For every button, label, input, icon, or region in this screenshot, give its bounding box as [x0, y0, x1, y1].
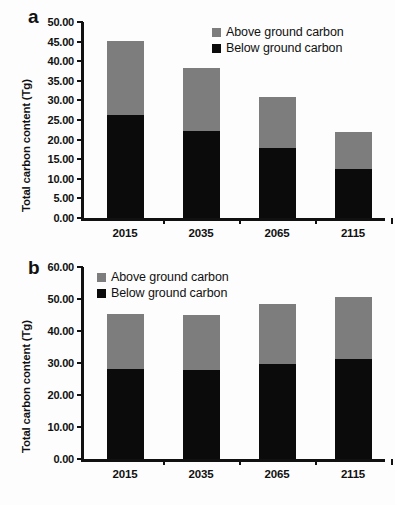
y-tick-mark	[77, 80, 83, 82]
chart-panel-b: b Total carbon content (Tg) 0.0010.0020.…	[0, 253, 395, 505]
x-tick-mark	[315, 459, 317, 465]
y-tick-label: 30.00	[47, 94, 74, 106]
y-tick-label: 45.00	[47, 36, 74, 48]
y-tick-mark	[77, 426, 83, 428]
bar-2015	[107, 314, 144, 459]
y-tick-label: 5.00	[53, 192, 74, 204]
panel-b-legend: Above ground carbon Below ground carbon	[97, 270, 229, 302]
panel-a-x-axis-line	[81, 218, 385, 221]
bar-segment-below-ground	[107, 369, 144, 459]
bar-segment-above-ground	[107, 314, 144, 369]
y-tick-mark	[77, 362, 83, 364]
panel-a-y-axis-title: Total carbon content (Tg)	[20, 79, 32, 212]
y-tick-mark	[77, 178, 83, 180]
y-tick-mark	[77, 41, 83, 43]
bar-segment-below-ground	[259, 364, 296, 459]
legend-swatch-below-ground-icon	[97, 289, 106, 298]
bar-2015	[107, 41, 144, 218]
legend-swatch-above-ground-icon	[212, 28, 221, 37]
y-tick-mark	[77, 99, 83, 101]
panel-a-legend-item-above: Above ground carbon	[212, 25, 344, 39]
y-tick-mark	[77, 394, 83, 396]
x-tick-mark	[391, 459, 393, 465]
bar-segment-above-ground	[259, 304, 296, 364]
panel-b-x-axis-line	[81, 459, 385, 462]
bar-segment-above-ground	[183, 68, 220, 132]
x-tick-mark	[163, 459, 165, 465]
bar-2065	[259, 304, 296, 459]
figure-stacked-carbon-charts: a Total carbon content (Tg) 0.005.0010.0…	[0, 0, 395, 505]
y-tick-label: 50.00	[47, 293, 74, 305]
bar-segment-below-ground	[107, 115, 144, 218]
x-tick-label-2065: 2065	[265, 227, 290, 239]
x-tick-mark	[391, 218, 393, 224]
x-tick-label-2035: 2035	[189, 227, 214, 239]
panel-b-legend-label-above: Above ground carbon	[111, 270, 229, 284]
panel-b-letter: b	[28, 257, 40, 279]
y-tick-label: 10.00	[47, 173, 74, 185]
y-tick-mark	[77, 119, 83, 121]
x-tick-label-2115: 2115	[341, 468, 365, 480]
x-tick-label-2065: 2065	[265, 468, 290, 480]
y-tick-label: 35.00	[47, 75, 74, 87]
y-tick-mark	[77, 217, 83, 219]
x-tick-mark	[315, 218, 317, 224]
bar-segment-above-ground	[335, 297, 372, 360]
x-tick-mark	[163, 218, 165, 224]
legend-swatch-below-ground-icon	[212, 44, 221, 53]
y-tick-label: 40.00	[47, 325, 74, 337]
y-tick-label: 40.00	[47, 55, 74, 67]
bar-segment-below-ground	[335, 359, 372, 459]
panel-a-legend: Above ground carbon Below ground carbon	[212, 25, 344, 57]
chart-panel-a: a Total carbon content (Tg) 0.005.0010.0…	[0, 0, 395, 253]
y-tick-label: 0.00	[53, 453, 74, 465]
y-tick-label: 10.00	[47, 421, 74, 433]
panel-b-legend-item-below: Below ground carbon	[97, 286, 229, 300]
bar-2115	[335, 132, 372, 218]
panel-a-legend-label-above: Above ground carbon	[226, 25, 344, 39]
bar-segment-below-ground	[335, 169, 372, 218]
x-tick-mark	[239, 218, 241, 224]
y-tick-mark	[77, 458, 83, 460]
panel-a-letter: a	[28, 6, 39, 28]
y-tick-label: 30.00	[47, 357, 74, 369]
y-tick-label: 0.00	[53, 212, 74, 224]
y-tick-mark	[77, 197, 83, 199]
x-tick-label-2015: 2015	[113, 468, 138, 480]
panel-b-legend-item-above: Above ground carbon	[97, 270, 229, 284]
bar-segment-below-ground	[259, 148, 296, 218]
bar-segment-above-ground	[259, 97, 296, 148]
bar-segment-below-ground	[183, 131, 220, 218]
y-tick-label: 15.00	[47, 153, 74, 165]
bar-2035	[183, 315, 220, 459]
legend-swatch-above-ground-icon	[97, 273, 106, 282]
bar-2035	[183, 68, 220, 218]
x-tick-mark	[239, 459, 241, 465]
bar-segment-below-ground	[183, 370, 220, 459]
x-tick-label-2115: 2115	[341, 227, 365, 239]
y-tick-label: 50.00	[47, 16, 74, 28]
panel-a-legend-item-below: Below ground carbon	[212, 41, 344, 55]
panel-b-legend-label-below: Below ground carbon	[111, 286, 227, 300]
bar-segment-above-ground	[183, 315, 220, 370]
bar-segment-above-ground	[335, 132, 372, 169]
bar-2065	[259, 96, 296, 218]
y-tick-mark	[77, 21, 83, 23]
y-tick-label: 20.00	[47, 389, 74, 401]
y-tick-mark	[77, 139, 83, 141]
panel-a-legend-label-below: Below ground carbon	[226, 41, 342, 55]
x-tick-label-2035: 2035	[189, 468, 214, 480]
y-tick-mark	[77, 60, 83, 62]
y-tick-label: 60.00	[47, 261, 74, 273]
y-tick-mark	[77, 330, 83, 332]
panel-b-y-axis-title: Total carbon content (Tg)	[20, 320, 32, 453]
bar-2115	[335, 297, 372, 459]
x-tick-label-2015: 2015	[113, 227, 138, 239]
y-tick-label: 25.00	[47, 114, 74, 126]
y-tick-label: 20.00	[47, 134, 74, 146]
y-tick-mark	[77, 298, 83, 300]
bar-segment-above-ground	[107, 41, 144, 115]
y-tick-mark	[77, 266, 83, 268]
y-tick-mark	[77, 158, 83, 160]
